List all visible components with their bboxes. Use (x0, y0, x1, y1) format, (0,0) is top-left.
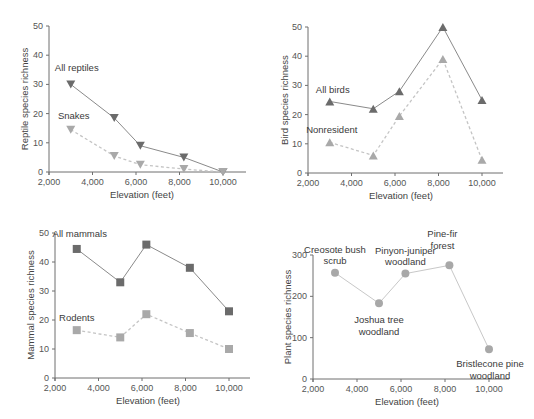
data-point-marker (186, 329, 194, 337)
y-tick-label: 0 (297, 168, 302, 178)
data-point-marker (225, 307, 233, 315)
y-axis-title: Bird species richness (279, 55, 290, 145)
x-tick-label: 6,000 (384, 178, 407, 188)
x-tick-label: 6,000 (390, 384, 413, 394)
x-tick-label: 4,000 (340, 178, 363, 188)
data-point-marker (142, 241, 150, 249)
data-point-marker (395, 87, 404, 95)
y-tick-label: 50 (292, 22, 302, 32)
y-tick-label: 30 (33, 79, 43, 89)
data-point-marker (110, 152, 119, 160)
data-point-marker (438, 55, 447, 63)
series-line (77, 314, 229, 349)
series-label: Nonresident (306, 124, 358, 135)
habitat-annotation: Bristlecone pinewoodland (456, 358, 524, 381)
series-all-birds: All birds (316, 23, 487, 113)
series-line (330, 27, 482, 109)
data-point-marker (136, 161, 145, 169)
x-tick-label: 8,000 (434, 384, 457, 394)
series-rodents: Rodents (59, 310, 233, 353)
series-label: All mammals (53, 228, 108, 239)
data-point-marker (116, 333, 124, 341)
chart-panel-bottom-left: 2,0004,0006,0008,00010,00001020304050Ele… (25, 228, 250, 406)
data-point-marker (179, 153, 188, 161)
data-point-marker (186, 264, 194, 272)
x-tick-label: 8,000 (174, 383, 197, 393)
y-tick-label: 20 (39, 315, 49, 325)
data-point-marker (136, 142, 145, 150)
data-point-marker (445, 261, 453, 269)
y-tick-label: 40 (292, 51, 302, 61)
chart-panel-top-left: 2,0004,0006,0008,00010,00001020304050Ele… (19, 21, 246, 200)
habitat-annotation: Pinyon-juniperwoodland (375, 245, 436, 268)
y-tick-label: 50 (33, 21, 43, 31)
habitat-annotation: Pine-firforest (427, 228, 457, 251)
data-point-marker (225, 345, 233, 353)
data-point-marker (375, 299, 383, 307)
x-tick-label: 10,000 (209, 177, 237, 187)
y-tick-label: 200 (292, 291, 307, 301)
series-all-mammals: All mammals (53, 228, 233, 315)
series-label: All reptiles (55, 62, 99, 73)
y-tick-label: 30 (292, 80, 302, 90)
data-point-marker (485, 345, 493, 353)
x-tick-label: 4,000 (81, 177, 104, 187)
series-label: Snakes (58, 110, 90, 121)
data-point-marker (395, 112, 404, 120)
data-point-marker (116, 278, 124, 286)
x-tick-label: 2,000 (44, 383, 67, 393)
y-axis-title: Reptile species richness (19, 48, 30, 151)
data-point-marker (325, 97, 334, 105)
x-tick-label: 6,000 (125, 177, 148, 187)
x-axis-title: Elevation (feet) (375, 396, 439, 407)
chart-panel-top-right: 2,0004,0006,0008,00010,00001020304050Ele… (279, 22, 503, 201)
data-point-marker (142, 310, 150, 318)
x-tick-label: 10,000 (468, 178, 496, 188)
series-line (330, 59, 482, 160)
x-tick-label: 4,000 (87, 383, 110, 393)
series-label: Rodents (59, 312, 95, 323)
x-axis-title: Elevation (feet) (369, 190, 433, 201)
series-label: All birds (316, 84, 350, 95)
y-tick-label: 10 (33, 138, 43, 148)
y-tick-label: 40 (33, 50, 43, 60)
data-point-marker (438, 23, 447, 31)
x-tick-label: 2,000 (297, 178, 320, 188)
series-line (71, 84, 223, 172)
y-tick-label: 50 (39, 228, 49, 238)
y-tick-label: 30 (39, 286, 49, 296)
x-axis-title: Elevation (feet) (116, 395, 180, 406)
x-tick-label: 2,000 (38, 177, 61, 187)
chart-panel-bottom-right: 2,0004,0006,0008,00010,0000100200300Elev… (282, 228, 524, 407)
chart-figure: 2,0004,0006,0008,00010,00001020304050Ele… (0, 0, 534, 419)
series-line (77, 245, 229, 312)
data-point-marker (325, 138, 334, 146)
data-point-marker (478, 96, 487, 104)
data-point-marker (331, 269, 339, 277)
y-axis-title: Mammal species richness (25, 250, 36, 360)
x-tick-label: 8,000 (427, 178, 450, 188)
x-tick-label: 6,000 (131, 383, 154, 393)
x-tick-label: 8,000 (168, 177, 191, 187)
y-tick-label: 0 (44, 373, 49, 383)
y-axis-title: Plant species richness (282, 269, 293, 364)
x-tick-label: 10,000 (475, 384, 503, 394)
x-tick-label: 4,000 (346, 384, 369, 394)
data-point-marker (401, 270, 409, 278)
y-tick-label: 40 (39, 257, 49, 267)
data-point-marker (369, 151, 378, 159)
y-tick-label: 20 (292, 110, 302, 120)
y-tick-label: 10 (292, 139, 302, 149)
x-tick-label: 2,000 (302, 384, 325, 394)
y-tick-label: 100 (292, 333, 307, 343)
series-line (71, 130, 223, 172)
series-plants (331, 261, 493, 353)
x-axis-title: Elevation (feet) (110, 189, 174, 200)
data-point-marker (369, 105, 378, 113)
data-point-marker (73, 326, 81, 334)
y-tick-label: 0 (302, 374, 307, 384)
series-nonresident: Nonresident (306, 55, 486, 164)
y-tick-label: 10 (39, 344, 49, 354)
data-point-marker (66, 126, 75, 134)
habitat-annotation: Joshua treewoodland (354, 314, 404, 337)
